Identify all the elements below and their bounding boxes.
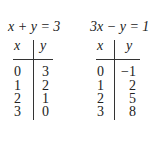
equation-2: 3x − y = 1 <box>90 19 149 35</box>
table-2-header-rule <box>96 59 140 60</box>
table-2-header-y: y <box>126 38 132 54</box>
table-1-row-4-y: 0 <box>42 104 49 120</box>
table-1-header-y: y <box>40 38 46 54</box>
table-2-header-x: x <box>97 38 103 54</box>
table-1-column-rule <box>33 40 34 120</box>
table-2-column-rule <box>114 40 115 120</box>
table-1-header-x: x <box>14 38 20 54</box>
table-1-row-4-x: 3 <box>14 104 21 120</box>
equation-2-text: 3x − y = 1 <box>90 19 149 34</box>
equation-1-text: x + y = 3 <box>8 19 60 34</box>
table-2-row-4-x: 3 <box>97 104 104 120</box>
equation-1: x + y = 3 <box>8 19 60 35</box>
table-2-row-4-y: 8 <box>129 104 136 120</box>
